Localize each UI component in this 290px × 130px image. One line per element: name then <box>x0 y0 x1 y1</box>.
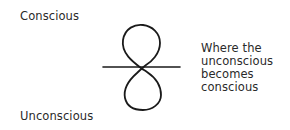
annotation-text: Where the unconscious becomes conscious <box>201 42 273 94</box>
unconscious-label: Unconscious <box>20 110 93 123</box>
annotation-line: conscious <box>201 81 273 94</box>
